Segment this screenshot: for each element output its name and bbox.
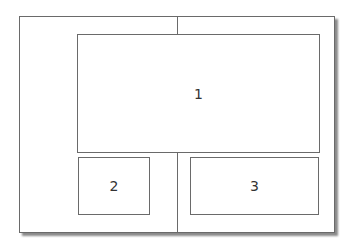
region-3-label: 3 (250, 178, 259, 194)
region-2: 2 (78, 157, 150, 215)
region-3: 3 (190, 157, 319, 215)
divider-line-bottom (177, 152, 178, 233)
region-1-label: 1 (194, 86, 203, 102)
divider-line-top (177, 16, 178, 34)
region-2-label: 2 (110, 178, 119, 194)
region-1: 1 (77, 34, 320, 153)
